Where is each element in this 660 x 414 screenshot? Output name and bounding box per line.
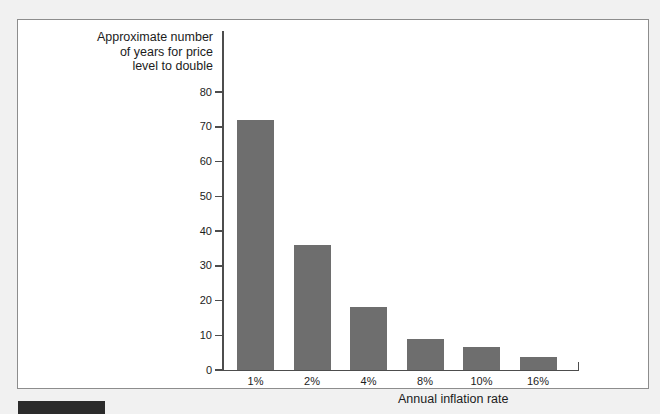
caption-marker-bar <box>18 401 105 414</box>
x-axis-tick-label: 10% <box>470 375 492 387</box>
chart-plot-area: Approximate number of years for price le… <box>18 20 650 390</box>
bar <box>294 245 331 370</box>
bar <box>463 347 500 370</box>
bar <box>520 357 557 370</box>
x-axis-title: Annual inflation rate <box>398 392 509 406</box>
bar <box>407 339 444 370</box>
bar <box>350 307 387 370</box>
x-axis-tick-label: 16% <box>527 375 549 387</box>
x-axis-tick-label: 4% <box>361 375 377 387</box>
figure-panel: Approximate number of years for price le… <box>17 19 649 389</box>
bar-series <box>18 20 650 370</box>
x-axis-tick-label: 8% <box>417 375 433 387</box>
x-axis-tick-label: 1% <box>248 375 264 387</box>
x-axis-tick-label: 2% <box>304 375 320 387</box>
bar <box>237 120 274 370</box>
